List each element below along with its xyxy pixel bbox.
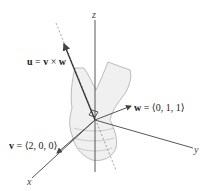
- diagram-canvas: [0, 0, 209, 191]
- v-label: v = ⟨2, 0, 0⟩: [9, 141, 57, 151]
- y-axis-label: y: [194, 145, 198, 155]
- w-label: w = ⟨0, 1, 1⟩: [134, 103, 185, 113]
- right-hand-illustration: [70, 62, 131, 161]
- u-label: u = v × w: [27, 57, 66, 67]
- x-axis-label: x: [27, 177, 31, 187]
- z-axis-label: z: [92, 10, 96, 20]
